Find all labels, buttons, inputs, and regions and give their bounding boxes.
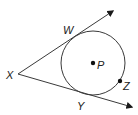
label-y: Y <box>77 100 85 112</box>
tangent-circle-diagram: X W Y P Z <box>0 0 138 115</box>
point-z-dot <box>118 79 122 83</box>
label-w: W <box>63 24 75 36</box>
ray-xy <box>18 74 132 107</box>
label-x: X <box>5 69 14 81</box>
diagram-canvas: X W Y P Z <box>0 0 138 115</box>
label-z: Z <box>122 80 131 92</box>
point-p-dot <box>91 61 95 65</box>
label-p: P <box>97 59 105 71</box>
